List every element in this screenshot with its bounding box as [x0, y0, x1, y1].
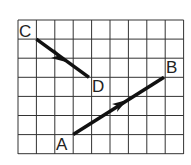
point-label-d: D	[92, 78, 104, 95]
vector-ab	[73, 77, 164, 134]
point-label-b: B	[166, 59, 177, 76]
point-label-c: C	[19, 23, 31, 40]
point-label-a: A	[56, 136, 67, 153]
